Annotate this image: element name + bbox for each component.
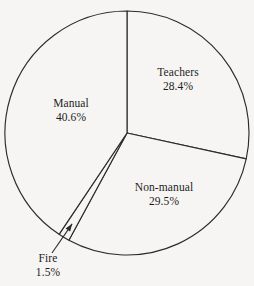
pie-label-name: Manual bbox=[53, 97, 89, 111]
pie-label-fire: Fire1.5% bbox=[36, 252, 60, 279]
pie-label-name: Teachers bbox=[157, 66, 199, 80]
pie-label-name: Non-manual bbox=[135, 181, 193, 195]
pie-label-teachers: Teachers28.4% bbox=[157, 66, 199, 93]
pie-label-manual: Manual40.6% bbox=[53, 97, 89, 124]
pie-label-name: Fire bbox=[36, 252, 60, 266]
pie-label-value: 1.5% bbox=[36, 265, 60, 279]
pie-label-non-manual: Non-manual29.5% bbox=[135, 181, 193, 208]
pie-slice-group bbox=[5, 11, 249, 255]
pie-label-value: 40.6% bbox=[53, 110, 89, 124]
pie-chart-canvas bbox=[0, 0, 254, 286]
pie-chart: Teachers28.4%Non-manual29.5%Fire1.5%Manu… bbox=[0, 0, 254, 286]
pie-label-value: 28.4% bbox=[157, 79, 199, 93]
pie-label-value: 29.5% bbox=[135, 194, 193, 208]
